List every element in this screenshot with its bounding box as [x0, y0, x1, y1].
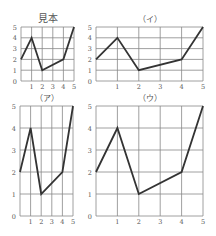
chart-panel: 見本01234512345（イ）01234512345（ア）0123451234…: [0, 0, 216, 236]
x-tick-label: 1: [30, 83, 34, 91]
x-tick-label: 3: [158, 83, 162, 91]
y-tick-label: 3: [12, 147, 16, 155]
y-tick-label: 2: [88, 56, 92, 64]
x-tick-label: 3: [50, 218, 54, 226]
line-chart: 見本01234512345: [13, 12, 76, 91]
chart-title: （イ）: [138, 15, 162, 24]
x-tick-label: 2: [39, 218, 43, 226]
y-tick-label: 2: [13, 56, 17, 64]
x-tick-label: 1: [115, 83, 119, 91]
x-tick-label: 1: [29, 218, 33, 226]
x-tick-label: 4: [180, 83, 184, 91]
y-tick-label: 3: [88, 147, 92, 155]
x-tick-label: 5: [72, 83, 76, 91]
grid: [96, 27, 203, 81]
y-tick-label: 4: [13, 34, 17, 42]
y-tick-label: 2: [88, 169, 92, 177]
y-tick-label: 4: [12, 125, 16, 133]
y-tick-label: 3: [13, 45, 17, 53]
x-tick-label: 3: [51, 83, 55, 91]
y-tick-label: 0: [12, 213, 16, 221]
line-chart: （ウ）01234512345: [88, 94, 205, 226]
y-tick-label: 5: [12, 103, 16, 111]
y-tick-label: 1: [88, 191, 92, 199]
charts-svg: 見本01234512345（イ）01234512345（ア）0123451234…: [0, 0, 216, 236]
y-tick-label: 1: [12, 191, 16, 199]
chart-title: 見本: [38, 12, 58, 24]
y-tick-label: 0: [13, 78, 17, 86]
x-tick-label: 2: [137, 218, 141, 226]
chart-title: （ア）: [35, 94, 59, 103]
y-tick-label: 3: [88, 45, 92, 53]
x-tick-label: 3: [158, 218, 162, 226]
x-tick-label: 5: [201, 218, 205, 226]
line-chart: （イ）01234512345: [88, 15, 205, 91]
y-tick-label: 4: [88, 125, 92, 133]
x-tick-label: 2: [40, 83, 44, 91]
y-tick-label: 5: [13, 24, 17, 32]
y-tick-label: 5: [88, 103, 92, 111]
y-tick-label: 1: [13, 67, 17, 75]
x-tick-label: 4: [180, 218, 184, 226]
x-tick-label: 1: [115, 218, 119, 226]
x-tick-label: 5: [71, 218, 75, 226]
line-chart: （ア）01234512345: [12, 94, 75, 226]
x-tick-label: 2: [137, 83, 141, 91]
y-tick-label: 0: [88, 78, 92, 86]
y-tick-label: 0: [88, 213, 92, 221]
chart-title: （ウ）: [138, 94, 162, 103]
y-tick-label: 4: [88, 34, 92, 42]
x-tick-label: 4: [60, 218, 64, 226]
x-tick-label: 4: [61, 83, 65, 91]
y-tick-label: 1: [88, 67, 92, 75]
x-tick-label: 5: [201, 83, 205, 91]
y-tick-label: 5: [88, 24, 92, 32]
y-tick-label: 2: [12, 169, 16, 177]
grid: [96, 106, 203, 216]
